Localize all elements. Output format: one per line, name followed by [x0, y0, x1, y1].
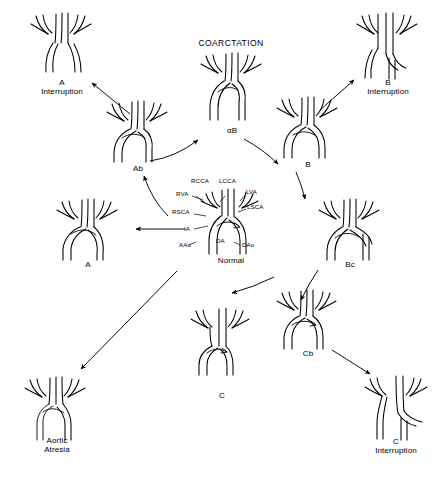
- caption-bc: Bc: [314, 260, 386, 269]
- figure-b-interruption: [348, 10, 428, 82]
- figure-cb: [272, 289, 344, 351]
- node-b: B: [272, 94, 344, 160]
- figure-b: [272, 94, 344, 160]
- diagram-title: COARCTATION: [178, 38, 284, 48]
- label-lcca: LCCA: [219, 177, 236, 184]
- node-cb: Cb: [272, 289, 344, 351]
- figure-c: [186, 305, 258, 377]
- caption-b-interruption: B Interruption: [346, 78, 430, 97]
- node-ab: Ab: [102, 98, 174, 164]
- figure-ab: [102, 98, 174, 164]
- figure-c-interruption: [356, 373, 436, 443]
- caption-cb: Cb: [272, 349, 344, 358]
- aortic-arch-anomalies-diagram: COARCTATION: [0, 0, 439, 479]
- arrow-normal-to-aortic-atresia: [81, 271, 177, 369]
- arrow-b-to-bc: [296, 172, 305, 199]
- figure-aortic-atresia: [18, 374, 96, 442]
- node-aortic-atresia: Aortic Atresia: [18, 374, 96, 442]
- node-coarctation-ab: αB: [196, 50, 268, 124]
- node-bc: Bc: [314, 196, 386, 262]
- node-c-interruption: C Interruption: [356, 373, 436, 443]
- caption-a: A: [52, 260, 124, 269]
- label-rva: RVA: [176, 190, 188, 197]
- node-b-interruption: B Interruption: [348, 10, 428, 82]
- caption-ab: Ab: [102, 164, 174, 173]
- figure-a-interruption: [22, 10, 102, 82]
- label-rsca: RSCA: [172, 208, 190, 215]
- node-a-interruption: A Interruption: [22, 10, 102, 82]
- label-lva: LVA: [246, 188, 257, 195]
- caption-coarctation-ab: αB: [196, 126, 268, 135]
- caption-c-interruption: C Interruption: [352, 437, 439, 456]
- node-a: A: [52, 196, 124, 262]
- label-da: DA: [216, 237, 225, 244]
- figure-bc: [314, 196, 386, 262]
- label-ia: IA: [184, 225, 190, 232]
- node-c: C: [186, 305, 258, 377]
- caption-a-interruption: A Interruption: [20, 78, 104, 97]
- label-dao: DAo: [242, 241, 254, 248]
- caption-b: B: [272, 160, 344, 169]
- arrow-normal-to-ab: [144, 176, 168, 216]
- label-aao: AAo: [179, 241, 191, 248]
- caption-aortic-atresia: Aortic Atresia: [14, 436, 100, 455]
- figure-a: [52, 196, 124, 262]
- label-rcca: RCCA: [191, 177, 209, 184]
- caption-normal: Normal: [190, 256, 272, 265]
- label-lsca: LSCA: [247, 203, 264, 210]
- figure-coarctation-ab: [196, 50, 268, 124]
- caption-c: C: [186, 391, 258, 400]
- arrow-normal-to-c: [232, 277, 274, 293]
